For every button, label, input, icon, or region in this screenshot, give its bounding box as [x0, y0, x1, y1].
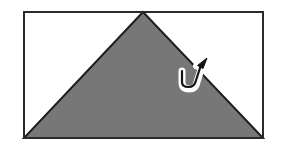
diagram-canvas: [0, 0, 281, 148]
figure-container: A rectangle containing a large shaded tr…: [0, 0, 281, 148]
